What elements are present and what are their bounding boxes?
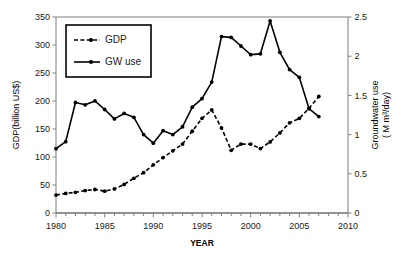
x-axis-tick-label: 1980 [46, 221, 66, 231]
data-point-marker [103, 189, 107, 193]
data-point-marker [181, 125, 185, 129]
y-axis-right-title-line2: ( M m³/day) [381, 92, 391, 138]
x-axis-tick-label: 2010 [338, 221, 358, 231]
data-point-marker [142, 133, 146, 137]
x-axis-tick-label: 2000 [241, 221, 261, 231]
data-point-marker [142, 171, 146, 175]
x-axis-tick-label: 1995 [192, 221, 212, 231]
data-point-marker [132, 176, 136, 180]
y-axis-right-tick-label: 0.5 [355, 169, 368, 179]
data-point-marker [54, 193, 58, 197]
legend-marker-sample [89, 38, 93, 42]
y-axis-right-tick-label: 0 [355, 208, 360, 218]
y-axis-left-tick-label: 150 [35, 124, 50, 134]
data-point-marker [307, 107, 311, 111]
data-point-marker [317, 95, 321, 99]
x-axis-tick-label: 1990 [143, 221, 163, 231]
data-point-marker [288, 121, 292, 125]
data-point-marker [200, 97, 204, 101]
y-axis-left-tick-label: 50 [40, 180, 50, 190]
data-point-marker [239, 142, 243, 146]
y-axis-right-tick-label: 1 [355, 130, 360, 140]
data-point-marker [171, 149, 175, 153]
data-point-marker [181, 142, 185, 146]
y-axis-left-tick-label: 250 [35, 68, 50, 78]
y-axis-right-tick-label: 2 [355, 51, 360, 61]
y-axis-right-title-line1: Groundwater use [370, 80, 380, 149]
data-point-marker [259, 52, 263, 56]
data-point-marker [288, 68, 292, 72]
data-point-marker [278, 131, 282, 135]
data-point-marker [259, 147, 263, 151]
data-point-marker [268, 140, 272, 144]
data-point-marker [171, 133, 175, 137]
data-point-marker [220, 126, 224, 130]
data-point-marker [249, 53, 253, 57]
data-point-marker [64, 192, 68, 196]
data-point-marker [151, 163, 155, 167]
data-point-marker [200, 116, 204, 120]
data-point-marker [239, 44, 243, 48]
data-point-marker [190, 129, 194, 133]
y-axis-left-title: GDP(billion US$) [11, 81, 21, 150]
data-point-marker [210, 108, 214, 112]
y-axis-left-tick-label: 0 [45, 208, 50, 218]
data-point-marker [161, 129, 165, 133]
data-point-marker [122, 183, 126, 187]
data-point-marker [249, 142, 253, 146]
data-point-marker [83, 189, 87, 193]
y-axis-left-tick-label: 300 [35, 40, 50, 50]
data-point-marker [74, 190, 78, 194]
data-point-marker [103, 108, 107, 112]
legend-label: GW use [105, 56, 142, 67]
data-point-marker [268, 19, 272, 23]
chart-legend: GDPGW use [66, 25, 151, 77]
data-point-marker [161, 156, 165, 160]
legend-box [66, 25, 151, 77]
data-point-marker [278, 50, 282, 54]
data-point-marker [113, 187, 117, 191]
data-point-marker [190, 105, 194, 109]
data-point-marker [220, 35, 224, 39]
data-point-marker [93, 99, 97, 103]
y-axis-left-tick-label: 350 [35, 12, 50, 22]
data-point-marker [151, 141, 155, 145]
data-point-marker [93, 188, 97, 192]
data-point-marker [229, 35, 233, 39]
data-point-marker [317, 115, 321, 119]
y-axis-left-tick-label: 100 [35, 152, 50, 162]
line-chart: 05010015020025030035000.511.522.51980198… [0, 0, 403, 263]
data-point-marker [210, 80, 214, 84]
data-point-marker [74, 101, 78, 105]
data-point-marker [229, 148, 233, 152]
x-axis-title: YEAR [190, 238, 214, 248]
chart-container: 05010015020025030035000.511.522.51980198… [0, 0, 403, 263]
data-point-marker [297, 75, 301, 79]
x-axis-tick-label: 2005 [289, 221, 309, 231]
x-axis-tick-label: 1985 [95, 221, 115, 231]
legend-marker-sample [89, 60, 93, 64]
data-point-marker [132, 115, 136, 119]
data-point-marker [83, 103, 87, 107]
data-point-marker [54, 147, 58, 151]
data-point-marker [122, 112, 126, 116]
y-axis-right-tick-label: 1.5 [355, 91, 368, 101]
legend-label: GDP [105, 34, 127, 45]
y-axis-left-tick-label: 200 [35, 96, 50, 106]
data-point-marker [113, 117, 117, 121]
data-point-marker [297, 116, 301, 120]
y-axis-right-tick-label: 2.5 [355, 12, 368, 22]
data-point-marker [64, 140, 68, 144]
